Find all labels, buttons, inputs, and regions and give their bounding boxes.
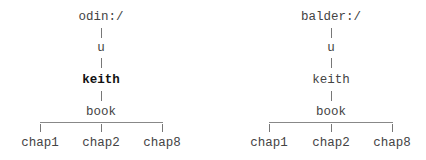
connector-line — [101, 58, 102, 68]
branch-tick — [101, 124, 102, 132]
connector-line — [101, 91, 102, 101]
tree-balder: balder:/ u keith book chap1 chap2 chap8 — [213, 0, 426, 160]
dir-node-keith: keith — [312, 74, 350, 87]
dir-node-book: book — [316, 106, 346, 119]
file-node-chap2: chap2 — [312, 137, 350, 150]
file-node-chap2: chap2 — [82, 137, 120, 150]
dir-node-book: book — [86, 106, 116, 119]
connector-line — [331, 91, 332, 101]
branch-tick — [40, 124, 41, 132]
file-node-chap8: chap8 — [143, 137, 181, 150]
connector-line — [101, 28, 102, 38]
file-node-chap8: chap8 — [373, 137, 411, 150]
tree-odin: odin:/ u keith book chap1 chap2 chap8 — [0, 0, 213, 160]
dir-node-keith-highlighted: keith — [82, 74, 120, 87]
branch-line — [40, 122, 163, 123]
connector-line — [331, 58, 332, 68]
dir-node-u: u — [327, 42, 335, 55]
dir-node-u: u — [97, 42, 105, 55]
branch-tick — [392, 124, 393, 132]
file-node-chap1: chap1 — [21, 137, 59, 150]
branch-tick — [331, 124, 332, 132]
connector-line — [331, 28, 332, 38]
branch-tick — [162, 124, 163, 132]
root-node-balder: balder:/ — [301, 11, 361, 24]
root-node-odin: odin:/ — [78, 11, 123, 24]
file-node-chap1: chap1 — [250, 137, 288, 150]
branch-tick — [269, 124, 270, 132]
branch-line — [269, 122, 393, 123]
